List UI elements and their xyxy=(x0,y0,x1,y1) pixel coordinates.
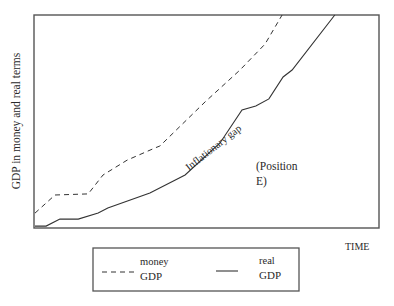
inflationary-gap-label: Inflationary gap xyxy=(183,122,243,172)
legend-money-label-line2: GDP xyxy=(140,270,162,282)
legend-real-label-line2: GDP xyxy=(259,269,281,281)
position-label-line2: E) xyxy=(256,175,267,188)
y-axis-label: GDP in money and real terms xyxy=(10,52,23,189)
chart: GDP in money and real terms Inflationary… xyxy=(0,0,394,306)
x-axis-label: TIME xyxy=(345,241,369,252)
money-gdp-line xyxy=(35,15,282,213)
legend: money GDP real GDP xyxy=(93,248,299,291)
plot-area-frame xyxy=(34,15,379,228)
legend-money-label-line1: money xyxy=(140,256,169,267)
position-label-line1: (Position xyxy=(256,160,298,173)
real-gdp-line xyxy=(35,15,335,226)
legend-real-label-line1: real xyxy=(259,255,275,266)
